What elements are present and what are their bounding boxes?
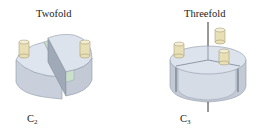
twofold-right-green-notch xyxy=(66,70,74,82)
threefold-post-2 xyxy=(215,28,225,44)
twofold-post-right xyxy=(80,40,90,58)
threefold-model xyxy=(170,22,246,112)
threefold-post-3 xyxy=(219,49,229,65)
twofold-post-left xyxy=(19,40,29,58)
twofold-model xyxy=(16,34,92,99)
threefold-post-1 xyxy=(174,42,184,58)
symmetry-diagram xyxy=(0,0,259,134)
